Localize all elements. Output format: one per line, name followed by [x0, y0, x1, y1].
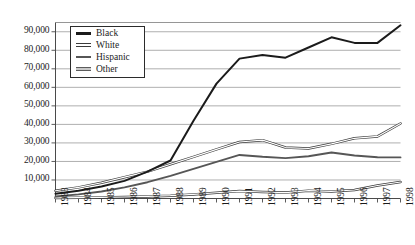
legend: BlackWhiteHispanicOther [70, 26, 145, 78]
y-axis-tick-label: 50,000 [24, 99, 50, 109]
x-axis-tick-label: 1984 [83, 187, 93, 206]
x-axis-tick-label: 1994 [313, 187, 323, 206]
x-axis-tick-label: 1996 [359, 187, 369, 206]
x-axis-tick-label: 1993 [290, 187, 300, 206]
x-axis-tick-label: 1992 [267, 187, 277, 206]
x-axis-tick-label: 1989 [198, 187, 208, 206]
y-axis-tick-label: 10,000 [24, 173, 50, 183]
x-axis-tick-label: 1998 [405, 187, 415, 206]
y-axis-tick-label: 80,000 [24, 44, 50, 54]
legend-swatch-icon [76, 32, 91, 35]
y-axis-tick-label: 30,000 [24, 136, 50, 146]
legend-item-black[interactable]: Black [71, 27, 144, 39]
legend-label: Other [96, 63, 118, 75]
legend-item-hispanic[interactable]: Hispanic [71, 51, 144, 63]
legend-item-other[interactable]: Other [71, 63, 144, 75]
y-tick-marks [52, 32, 56, 180]
x-axis-tick-label: 1986 [129, 187, 139, 206]
x-axis-tick-label: 1997 [382, 187, 392, 206]
legend-label: Black [96, 27, 118, 39]
y-axis-tick-label: 40,000 [24, 118, 50, 128]
x-axis-tick-label: 1983 [60, 187, 70, 206]
x-axis-tick-label: 1990 [221, 187, 231, 206]
y-axis-tick-label: 70,000 [24, 62, 50, 72]
legend-label: White [96, 39, 119, 51]
x-axis-tick-label: 1988 [175, 187, 185, 206]
x-axis-tick-label: 1987 [152, 187, 162, 206]
y-axis-tick-label: 60,000 [24, 81, 50, 91]
y-axis-tick-label: 20,000 [24, 155, 50, 165]
legend-swatch-icon [76, 67, 91, 70]
series-line-outline-white [56, 123, 401, 190]
x-axis-tick-label: 1991 [244, 187, 254, 206]
legend-label: Hispanic [96, 51, 130, 63]
legend-item-white[interactable]: White [71, 39, 144, 51]
y-axis-tick-label: 90,000 [24, 25, 50, 35]
legend-swatch-icon [76, 43, 91, 47]
x-axis-tick-label: 1995 [336, 187, 346, 206]
legend-swatch-icon [76, 56, 91, 58]
x-axis-tick-label: 1985 [106, 187, 116, 206]
